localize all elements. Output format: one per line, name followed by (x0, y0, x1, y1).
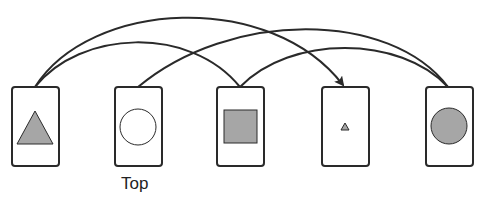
square-icon (224, 110, 257, 143)
arc-card1-to-card3 (35, 42, 240, 87)
circle-empty-icon (120, 109, 156, 145)
card-1 (12, 87, 59, 166)
circle-filled-icon (431, 108, 467, 144)
card-5 (426, 87, 473, 166)
card-4 (322, 87, 369, 166)
arc-card3-to-card5 (240, 48, 448, 87)
card-2 (115, 87, 162, 166)
diagram-canvas (0, 0, 485, 206)
top-label: Top (121, 174, 148, 194)
card-3 (217, 87, 264, 166)
